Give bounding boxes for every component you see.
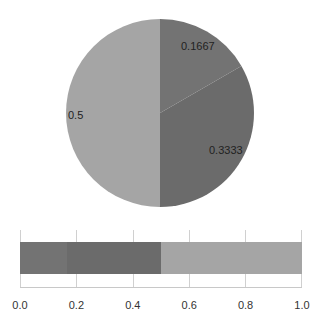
tick-label-0.0: 0.0 — [12, 299, 27, 311]
bar-segment-1 — [20, 242, 67, 274]
bar-segment-2 — [67, 242, 161, 274]
tick-label-0.4: 0.4 — [125, 299, 140, 311]
pie-label-0.5: 0.5 — [68, 109, 83, 121]
pie-label-0.3333: 0.3333 — [209, 144, 243, 156]
tick-label-0.8: 0.8 — [238, 299, 253, 311]
x-axis-tick-labels: 0.0 0.2 0.4 0.6 0.8 1.0 — [12, 299, 309, 311]
tick-label-1.0: 1.0 — [294, 299, 309, 311]
tick-label-0.2: 0.2 — [69, 299, 84, 311]
stacked-bar-chart: 0.0 0.2 0.4 0.6 0.8 1.0 — [12, 230, 309, 311]
pie-label-0.1667: 0.1667 — [181, 40, 215, 52]
pie-chart: 0.1667 0.3333 0.5 — [66, 19, 254, 207]
bar-segment-3 — [161, 242, 302, 274]
tick-label-0.6: 0.6 — [182, 299, 197, 311]
chart-canvas: 0.1667 0.3333 0.5 0.0 0.2 0.4 0.6 0.8 1.… — [0, 0, 319, 330]
